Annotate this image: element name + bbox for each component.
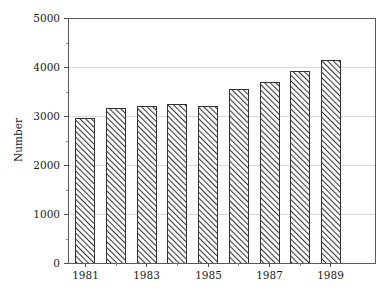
bar-chart: 010002000300040005000 198119831985198719… xyxy=(0,0,389,293)
bar-1985 xyxy=(199,107,218,264)
y-tick-label-2000: 2000 xyxy=(33,159,60,171)
bar-1986 xyxy=(230,90,249,264)
bar-1988 xyxy=(291,72,310,264)
x-tick-label-1981: 1981 xyxy=(72,269,99,281)
bar-1983 xyxy=(138,107,157,264)
y-tick-label-1000: 1000 xyxy=(33,208,60,220)
y-tick-label-0: 0 xyxy=(53,257,60,269)
bar-1984 xyxy=(168,105,187,264)
y-tick-label-5000: 5000 xyxy=(33,12,60,24)
y-tick-label-4000: 4000 xyxy=(33,61,60,73)
y-axis-title: Number xyxy=(12,117,24,162)
bar-1982 xyxy=(107,109,126,264)
bar-1987 xyxy=(261,83,280,264)
chart-container: 010002000300040005000 198119831985198719… xyxy=(0,0,389,293)
bar-1989 xyxy=(322,61,341,264)
x-tick-label-1989: 1989 xyxy=(317,269,344,281)
x-tick-label-1985: 1985 xyxy=(195,269,222,281)
x-tick-label-1983: 1983 xyxy=(133,269,160,281)
y-tick-label-3000: 3000 xyxy=(33,110,60,122)
bar-1981 xyxy=(76,119,95,264)
x-tick-label-1987: 1987 xyxy=(256,269,283,281)
